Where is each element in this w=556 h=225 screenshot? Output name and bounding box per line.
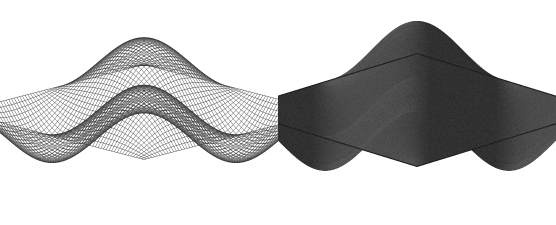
surface-figure-pair: Wireframe mesh surface Shaded solid surf… [0,0,556,225]
shaded-surface-canvas [278,0,556,225]
shaded-surface-panel: Shaded solid surface [278,0,556,225]
wireframe-surface-canvas [0,0,278,225]
wireframe-surface-panel: Wireframe mesh surface [0,0,278,225]
